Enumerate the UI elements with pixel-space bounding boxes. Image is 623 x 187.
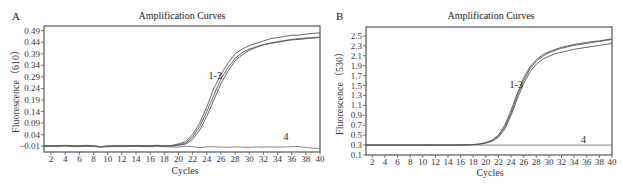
y-tick-label: 1.3 (351, 90, 363, 100)
x-tick-label: 38 (595, 157, 605, 167)
x-tick-label: 12 (431, 157, 440, 167)
y-tick-label: 1.1 (351, 100, 362, 110)
x-tick-label: 2 (370, 157, 375, 167)
x-tick-label: 20 (481, 157, 491, 167)
panel-label-b: B (336, 10, 343, 22)
y-tick-label: 1.5 (351, 81, 363, 91)
curve-annotation: 4 (581, 134, 586, 145)
chart-panel-b: B Amplification Curves Fluorescence（530）… (0, 0, 623, 187)
y-tick-label: 0.5 (351, 130, 363, 140)
curve-annotation: 1-3 (509, 79, 522, 90)
x-tick-label: 4 (383, 157, 388, 167)
y-tick-label: 2.1 (351, 51, 362, 61)
x-tick-label: 6 (395, 157, 400, 167)
x-tick-label: 8 (408, 157, 413, 167)
x-tick-label: 22 (494, 157, 503, 167)
y-tick-label: 2.3 (351, 41, 363, 51)
x-tick-label: 10 (418, 157, 428, 167)
curve-series-3 (366, 43, 612, 145)
x-tick-label: 26 (519, 157, 529, 167)
x-tick-label: 14 (444, 157, 454, 167)
figure: A Amplification Curves Fluorescence（610）… (0, 0, 623, 187)
y-tick-label: 1.9 (351, 61, 363, 71)
x-tick-label: 30 (544, 157, 554, 167)
plot-area-b: 0.10.30.50.70.91.11.31.51.71.92.12.32.52… (351, 27, 617, 167)
curve-series-2 (366, 39, 612, 145)
curve-series-1 (366, 39, 612, 145)
y-tick-label: 0.9 (351, 110, 363, 120)
x-tick-label: 24 (507, 157, 517, 167)
y-tick-label: 0.3 (351, 140, 363, 150)
y-tick-label: 0.7 (351, 120, 363, 130)
x-tick-label: 40 (608, 157, 618, 167)
plot-frame-b (366, 27, 612, 155)
x-tick-label: 36 (582, 157, 592, 167)
x-tick-label: 18 (469, 157, 479, 167)
chart-title-b: Amplification Curves (448, 10, 535, 21)
x-tick-label: 32 (557, 157, 566, 167)
x-tick-label: 16 (456, 157, 466, 167)
y-tick-label: 2.5 (351, 31, 363, 41)
x-axis-label-b: Cycles (476, 167, 503, 178)
x-tick-label: 34 (570, 157, 580, 167)
y-tick-label: 1.7 (351, 71, 363, 81)
x-tick-label: 28 (532, 157, 542, 167)
y-axis-label-b: Fluorescence（530） (334, 47, 345, 135)
y-tick-label: 0.1 (351, 150, 362, 160)
